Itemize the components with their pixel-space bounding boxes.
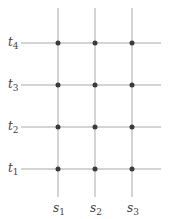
- point-s3-t3: [130, 83, 135, 88]
- point-s3-t2: [130, 125, 135, 130]
- point-s1-t2: [56, 125, 61, 130]
- point-s2-t3: [93, 83, 98, 88]
- point-s2-t1: [93, 167, 98, 172]
- label-t2: t2: [8, 119, 19, 135]
- label-s1: s1: [53, 201, 65, 217]
- point-s1-t4: [56, 41, 61, 46]
- label-t3: t3: [8, 77, 19, 93]
- t-axis-labels: t4t3t2t1: [8, 35, 19, 177]
- point-s1-t3: [56, 83, 61, 88]
- label-s2: s2: [90, 201, 102, 217]
- point-s2-t2: [93, 125, 98, 130]
- point-s1-t1: [56, 167, 61, 172]
- point-s2-t4: [93, 41, 98, 46]
- label-s3: s3: [127, 201, 139, 217]
- s-axis-labels: s1s2s3: [53, 201, 139, 217]
- point-s3-t4: [130, 41, 135, 46]
- point-s3-t1: [130, 167, 135, 172]
- lattice-diagram: t4t3t2t1 s1s2s3: [0, 0, 180, 219]
- label-t4: t4: [8, 35, 19, 51]
- horizontal-lines: [21, 43, 161, 169]
- label-t1: t1: [8, 161, 19, 177]
